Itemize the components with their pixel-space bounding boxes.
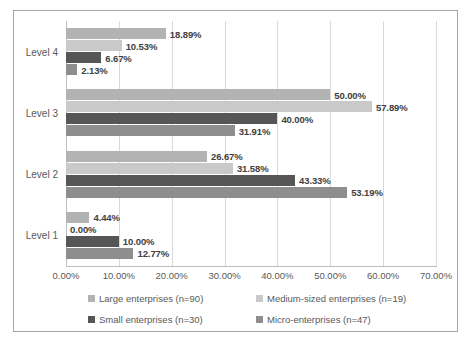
bar-value-label: 2.13% [77, 64, 107, 75]
bar-row: 50.00% [66, 89, 436, 100]
legend-item[interactable]: Micro-enterprises (n=47) [256, 314, 371, 325]
plot-area: Level 418.89%10.53%6.67%2.13%Level 350.0… [66, 21, 436, 266]
bar-value-label: 10.53% [122, 40, 158, 51]
bar-value-label: 31.91% [235, 125, 271, 136]
x-axis-tick-labels: 0.00%10.00%20.00%30.00%40.00%50.00%60.00… [66, 270, 436, 286]
bar-row: 10.00% [66, 236, 436, 247]
legend-swatch-icon [256, 316, 263, 323]
bar[interactable] [66, 113, 277, 124]
bar[interactable] [66, 64, 77, 75]
bar-row: 0.00% [66, 224, 436, 235]
bar[interactable] [66, 40, 122, 51]
bar-value-label: 26.67% [207, 151, 243, 162]
gridline-7000 [436, 21, 437, 266]
x-axis-tick-label: 30.00% [208, 270, 240, 281]
x-axis-tick-label: 0.00% [53, 270, 80, 281]
x-axis-tick-label: 10.00% [103, 270, 135, 281]
bar-group-level-3: Level 350.00%57.89%40.00%31.91% [66, 82, 436, 143]
legend-swatch-icon [88, 295, 95, 302]
bar[interactable] [66, 89, 330, 100]
bar-value-label: 53.19% [347, 187, 383, 198]
bar-row: 31.91% [66, 125, 436, 136]
bar[interactable] [66, 52, 101, 63]
legend-item[interactable]: Small enterprises (n=30) [88, 314, 203, 325]
x-axis-tick-label: 50.00% [314, 270, 346, 281]
bar[interactable] [66, 212, 89, 223]
legend-item[interactable]: Medium-sized enterprises (n=19) [256, 293, 406, 304]
chart-legend: Large enterprises (n=90)Medium-sized ent… [66, 293, 446, 333]
bar[interactable] [66, 28, 166, 39]
bar-row: 12.77% [66, 248, 436, 259]
bar-value-label: 40.00% [277, 113, 313, 124]
bar-value-label: 18.89% [166, 28, 202, 39]
legend-swatch-icon [88, 316, 95, 323]
bar[interactable] [66, 125, 235, 136]
bar[interactable] [66, 101, 372, 112]
bar-value-label: 12.77% [133, 248, 169, 259]
legend-swatch-icon [256, 295, 263, 302]
x-axis-tick-label: 20.00% [156, 270, 188, 281]
x-axis-line [66, 266, 437, 267]
x-axis-tick-label: 70.00% [420, 270, 452, 281]
bar-row: 31.58% [66, 163, 436, 174]
bar-row: 43.33% [66, 175, 436, 186]
y-axis-category-label: Level 1 [26, 230, 58, 241]
legend-label: Medium-sized enterprises (n=19) [267, 293, 406, 304]
bar-row: 53.19% [66, 187, 436, 198]
y-axis-category-label: Level 3 [26, 107, 58, 118]
bar-value-label: 50.00% [330, 89, 366, 100]
bar[interactable] [66, 163, 233, 174]
bar[interactable] [66, 187, 347, 198]
bar-group-level-4: Level 418.89%10.53%6.67%2.13% [66, 21, 436, 82]
bar-value-label: 57.89% [372, 101, 408, 112]
bar-value-label: 10.00% [119, 236, 155, 247]
x-axis-tick-label: 60.00% [367, 270, 399, 281]
bar[interactable] [66, 175, 295, 186]
y-axis-category-label: Level 4 [26, 46, 58, 57]
bar-group-level-2: Level 226.67%31.58%43.33%53.19% [66, 144, 436, 205]
bar-row: 26.67% [66, 151, 436, 162]
legend-label: Small enterprises (n=30) [99, 314, 203, 325]
bar-value-label: 31.58% [233, 163, 269, 174]
bar-row: 40.00% [66, 113, 436, 124]
bar-row: 4.44% [66, 212, 436, 223]
bar-value-label: 4.44% [89, 212, 119, 223]
bar-value-label: 6.67% [101, 52, 131, 63]
legend-item[interactable]: Large enterprises (n=90) [88, 293, 203, 304]
bar-row: 2.13% [66, 64, 436, 75]
bar-row: 18.89% [66, 28, 436, 39]
bar-value-label: 43.33% [295, 175, 331, 186]
chart-frame: Level 418.89%10.53%6.67%2.13%Level 350.0… [13, 10, 458, 332]
legend-label: Micro-enterprises (n=47) [267, 314, 371, 325]
bar-row: 10.53% [66, 40, 436, 51]
y-axis-category-label: Level 2 [26, 169, 58, 180]
bar-group-level-1: Level 14.44%0.00%10.00%12.77% [66, 205, 436, 266]
x-axis-tick-label: 40.00% [261, 270, 293, 281]
bar-value-label: 0.00% [66, 224, 96, 235]
bar[interactable] [66, 151, 207, 162]
bar[interactable] [66, 248, 133, 259]
bar[interactable] [66, 236, 119, 247]
bar-row: 57.89% [66, 101, 436, 112]
legend-label: Large enterprises (n=90) [99, 293, 203, 304]
bar-row: 6.67% [66, 52, 436, 63]
